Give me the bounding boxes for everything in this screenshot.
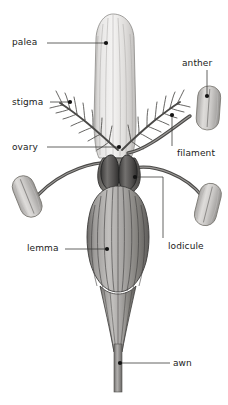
- dot-stigma: [68, 100, 72, 104]
- dot-filament: [170, 113, 174, 117]
- dot-anther: [205, 94, 209, 98]
- dot-lodicule: [133, 175, 137, 179]
- label-lodicule: lodicule: [168, 241, 204, 252]
- grass-floret-diagram: palea anther stigma ovary filament lodic…: [0, 0, 228, 405]
- awn-shape: [114, 344, 122, 392]
- label-lemma: lemma: [27, 243, 59, 254]
- label-awn: awn: [173, 358, 192, 369]
- label-filament: filament: [177, 148, 215, 159]
- anther-shape-upper-right: [195, 85, 221, 130]
- dot-ovary: [117, 145, 121, 149]
- label-palea: palea: [12, 37, 37, 48]
- label-stigma: stigma: [12, 97, 43, 108]
- dot-awn: [118, 361, 122, 365]
- lemma-shape: [87, 186, 149, 352]
- palea-shape: [94, 14, 136, 158]
- label-anther: anther: [182, 58, 212, 69]
- anther-shape-left: [9, 172, 46, 220]
- label-ovary: ovary: [12, 142, 38, 153]
- dot-lemma: [105, 247, 109, 251]
- dot-palea: [104, 41, 108, 45]
